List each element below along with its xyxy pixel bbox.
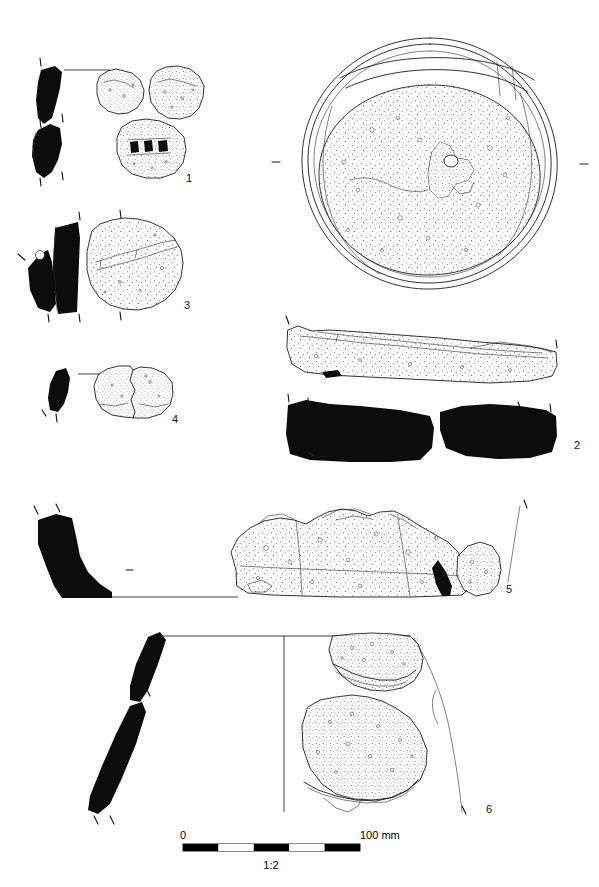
- scale-ratio-label: 1:2: [263, 859, 278, 871]
- plate-canvas: 1 3: [0, 0, 599, 887]
- scale-bar-segments: [183, 844, 360, 851]
- figure-3-number: 3: [184, 299, 190, 311]
- figure-6-number: 6: [486, 803, 492, 815]
- figure-4-fragment: [94, 366, 173, 418]
- scale-zero-label: 0: [180, 829, 186, 841]
- figure-4-number: 4: [172, 413, 178, 425]
- figure-2-number: 2: [574, 439, 580, 451]
- scale-max-label: 100 mm: [360, 829, 400, 841]
- figure-1-fragment-right: [149, 66, 204, 119]
- figure-5-number: 5: [506, 583, 512, 595]
- illustration-plate: 1 3: [0, 0, 599, 887]
- figure-1-number: 1: [186, 172, 192, 184]
